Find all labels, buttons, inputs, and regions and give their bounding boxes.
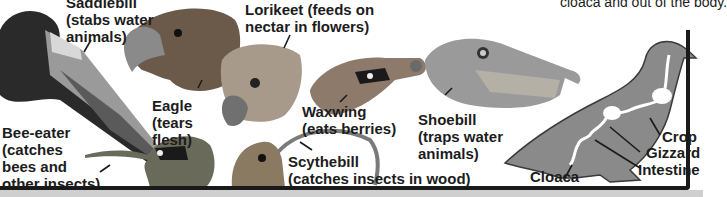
label-intestine: Intestine [638,161,700,178]
label-saddlebill: Saddlebill (stabs water animals) [66,0,154,45]
label-scythebill: Scythebill (catches insects in wood) [288,153,471,187]
page-background-strip [0,190,703,197]
label-lorikeet: Lorikeet (feeds on nectar in flowers) [245,1,374,35]
label-crop: Crop [662,128,697,145]
label-bee-eater: Bee-eater (catches bees and other insect… [2,124,100,192]
panel-border-right [686,30,690,190]
label-cloaca: Cloaca [530,168,579,185]
shoebill-illustration [425,39,580,108]
label-waxwing: Waxwing (eats berries) [302,103,396,137]
label-eagle: Eagle (tears flesh) [152,97,193,148]
caption-fragment: cloaca and out of the body. [560,0,727,11]
lorikeet-illustration [221,44,302,126]
label-gizzard: Gizzard [646,144,700,161]
